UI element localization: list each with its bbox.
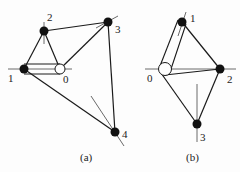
link-b-2-3 bbox=[197, 69, 220, 124]
label-a-0: 0 bbox=[63, 73, 69, 85]
node-b-0 bbox=[159, 63, 172, 76]
label-a-3: 3 bbox=[115, 23, 121, 35]
label-a-1: 1 bbox=[8, 72, 14, 84]
diagram-canvas: 0 1 2 3 4 (a) 0 1 2 3 (b) bbox=[0, 0, 240, 172]
node-a-3 bbox=[104, 18, 113, 27]
link-b-0-3 bbox=[161, 73, 197, 124]
caption-a: (a) bbox=[80, 151, 93, 164]
label-b-0: 0 bbox=[147, 72, 153, 84]
link-a-1-4 bbox=[24, 69, 115, 132]
node-a-2 bbox=[40, 27, 49, 36]
diagram-b: 0 1 2 3 (b) bbox=[145, 12, 236, 164]
link-b-0-2 bbox=[165, 69, 220, 75]
link-a-3-4 bbox=[108, 22, 115, 132]
link-a-1-2 bbox=[24, 31, 44, 69]
diagram-a: 0 1 2 3 4 (a) bbox=[8, 11, 128, 164]
tube-b-right bbox=[170, 24, 186, 72]
node-a-4 bbox=[111, 128, 120, 137]
label-b-2: 2 bbox=[227, 73, 233, 85]
label-a-4: 4 bbox=[122, 128, 128, 140]
caption-b: (b) bbox=[186, 151, 199, 164]
node-b-1 bbox=[178, 18, 187, 27]
label-b-3: 3 bbox=[200, 131, 206, 143]
link-b-1-2 bbox=[182, 22, 220, 69]
tube-b-left bbox=[160, 20, 178, 66]
label-a-2: 2 bbox=[47, 11, 53, 23]
label-b-1: 1 bbox=[190, 12, 196, 24]
node-b-3 bbox=[193, 120, 202, 129]
node-a-1 bbox=[20, 65, 29, 74]
linkage-diagrams: 0 1 2 3 4 (a) 0 1 2 3 (b) bbox=[0, 0, 240, 172]
axis-line-a-node4 bbox=[91, 96, 124, 146]
link-a-0-3 bbox=[60, 22, 108, 69]
link-a-2-0 bbox=[44, 31, 60, 69]
node-b-2 bbox=[216, 65, 225, 74]
